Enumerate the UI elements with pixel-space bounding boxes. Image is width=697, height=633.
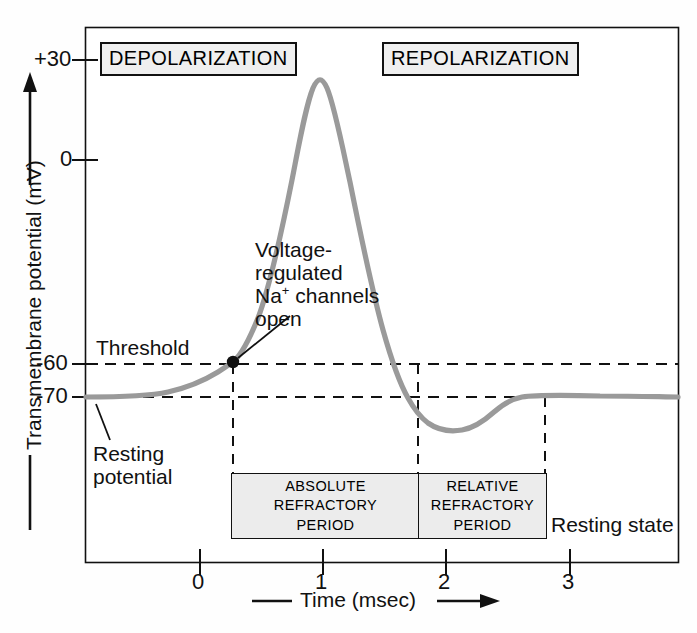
absolute-refractory-line1: ABSOLUTE bbox=[285, 478, 366, 494]
relative-refractory-line3: PERIOD bbox=[454, 517, 512, 533]
na-channels-line1: Voltage- bbox=[255, 238, 332, 261]
absolute-refractory-line2: REFRACTORY bbox=[274, 497, 377, 513]
resting-potential-label-line1: Resting bbox=[93, 442, 164, 465]
na-channels-line3-rest: channels bbox=[289, 284, 379, 307]
x-tick-label-2: 2 bbox=[438, 570, 450, 594]
absolute-refractory-line3: PERIOD bbox=[297, 517, 355, 533]
absolute-refractory-period-box: ABSOLUTE REFRACTORY PERIOD bbox=[231, 473, 420, 539]
phase-label-depolarization: DEPOLARIZATION bbox=[100, 42, 297, 76]
na-channels-line3-ion: Na bbox=[255, 284, 282, 307]
action-potential-figure: +30 0 -60 -70 Transmembrane potential (m… bbox=[0, 0, 697, 633]
resting-potential-label-line2: potential bbox=[93, 465, 172, 488]
relative-refractory-line1: RELATIVE bbox=[446, 478, 518, 494]
relative-refractory-period-box: RELATIVE REFRACTORY PERIOD bbox=[418, 473, 547, 539]
x-axis-arrow bbox=[437, 594, 500, 608]
y-tick-label-0: 0 bbox=[60, 147, 72, 171]
x-tick-label-3: 3 bbox=[562, 570, 574, 594]
na-channels-line2: regulated bbox=[255, 261, 343, 284]
relative-refractory-line2: REFRACTORY bbox=[431, 497, 534, 513]
y-axis-title: Transmembrane potential (mV) bbox=[22, 160, 46, 450]
x-tick-label-0: 0 bbox=[192, 570, 204, 594]
y-tick-label-30: +30 bbox=[34, 47, 71, 71]
resting-potential-label: Resting potential bbox=[93, 443, 172, 488]
resting-state-label: Resting state bbox=[551, 514, 674, 537]
na-channels-line4: open bbox=[255, 307, 302, 330]
threshold-label: Threshold bbox=[96, 337, 189, 360]
x-axis-title: Time (msec) bbox=[300, 589, 416, 612]
phase-label-repolarization: REPOLARIZATION bbox=[382, 42, 579, 76]
na-channels-annotation: Voltage- regulated Na+ channels open bbox=[255, 239, 379, 331]
threshold-point-marker bbox=[227, 356, 239, 368]
